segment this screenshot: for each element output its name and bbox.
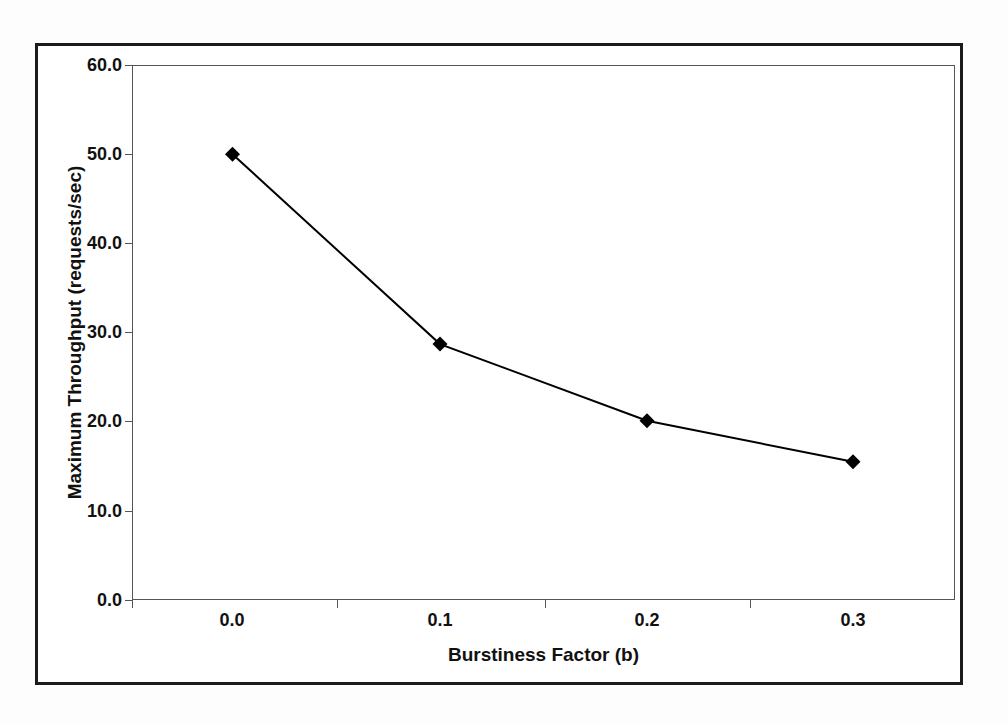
y-tick-mark-40 bbox=[125, 243, 133, 244]
x-tick-label-3: 0.3 bbox=[808, 610, 898, 631]
y-tick-mark-60 bbox=[125, 65, 133, 66]
x-tick-label-2: 0.2 bbox=[602, 610, 692, 631]
y-tick-mark-50 bbox=[125, 154, 133, 155]
y-axis-title: Maximum Throughput (requests/sec) bbox=[62, 65, 88, 600]
x-tick-mark-2 bbox=[545, 600, 546, 608]
y-tick-mark-20 bbox=[125, 421, 133, 422]
x-tick-label-1: 0.1 bbox=[395, 610, 485, 631]
y-tick-mark-10 bbox=[125, 511, 133, 512]
x-axis-title: Burstiness Factor (b) bbox=[132, 644, 955, 666]
y-tick-mark-30 bbox=[125, 332, 133, 333]
x-tick-label-0: 0.0 bbox=[187, 610, 277, 631]
x-tick-mark-3 bbox=[750, 600, 751, 608]
page-background: 60.0 50.0 40.0 30.0 20.0 10.0 0.0 0.0 0.… bbox=[0, 0, 1008, 725]
x-tick-mark-1 bbox=[337, 600, 338, 608]
plot-area bbox=[132, 65, 955, 600]
x-tick-mark-0 bbox=[132, 600, 133, 608]
